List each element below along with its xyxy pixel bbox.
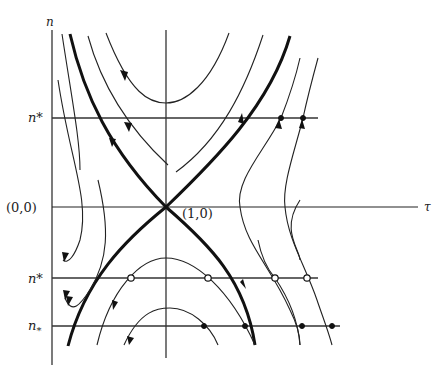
orbit-top-center — [106, 33, 229, 103]
level-label-lowest-base: n — [28, 318, 36, 333]
orbit-top-left — [88, 36, 168, 165]
arrow-top-left — [124, 122, 132, 132]
orbit-bottom-arch-1 — [97, 258, 255, 345]
separatrix-left-lower — [68, 207, 166, 346]
level-label-lowest-subscript: * — [36, 325, 41, 336]
n-axis-label: n — [46, 15, 54, 29]
orbit-left-s1 — [58, 80, 83, 261]
separatrix-right-upper — [166, 36, 290, 207]
fixed-point-open-4 — [304, 275, 310, 281]
fixed-point-open-3 — [272, 275, 278, 281]
level-label-upper: n* — [28, 110, 43, 125]
fixed-point-filled-lowest-3 — [300, 324, 305, 329]
orbit-right-top-2 — [303, 58, 318, 118]
fixed-point-open-1 — [128, 275, 134, 281]
fixed-point-filled-upper-2 — [301, 116, 306, 121]
fixed-point-filled-upper-1 — [279, 116, 284, 121]
fixed-point-filled-lowest-4 — [330, 324, 335, 329]
tau-axis-label: τ — [424, 200, 431, 214]
arrow-top-center — [120, 70, 128, 81]
orbit-left-outer — [62, 34, 80, 170]
orbit-right-s1 — [239, 118, 300, 345]
phase-portrait-diagram: n τ (0,0) (1,0) n* n* n* — [0, 0, 445, 374]
arrow-sep-right-lower — [240, 279, 246, 289]
arrow-bottom-arch-1 — [112, 300, 118, 310]
fixed-point-filled-lowest-2 — [243, 324, 248, 329]
fixed-point-open-2 — [205, 275, 211, 281]
arrow-sep-left-lower — [66, 296, 73, 306]
level-label-lowest: n* — [28, 318, 41, 336]
origin-label: (0,0) — [6, 200, 37, 215]
orbit-right-top-1 — [281, 58, 300, 118]
saddle-label: (1,0) — [182, 206, 213, 221]
fixed-point-filled-lowest-1 — [202, 324, 207, 329]
orbit-bottom-right-1 — [258, 240, 300, 345]
orbit-left-s2 — [65, 180, 106, 307]
arrow-bottom-arch-2 — [127, 336, 134, 345]
level-label-lower: n* — [28, 271, 43, 286]
